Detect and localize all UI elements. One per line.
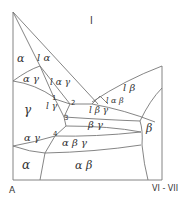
- region-l-label: l: [90, 16, 93, 26]
- axis-right-label: VI - VII: [152, 185, 178, 193]
- region-alpha-gamma-upper-label: α γ: [23, 74, 39, 84]
- point-3-label: 3: [64, 115, 68, 122]
- liquidus-outer: [13, 12, 98, 104]
- region-gamma-label: γ: [24, 104, 31, 116]
- axis-left-label: A: [9, 186, 15, 195]
- region-l-alpha-beta-label: l α β: [106, 97, 124, 105]
- region-l-gamma-label: l γ: [46, 102, 57, 111]
- region-beta-gamma-label: β γ: [88, 120, 103, 130]
- region-l-alpha-gamma-label: l α γ: [50, 78, 70, 87]
- region-alpha-gamma-lower-label: α γ: [24, 133, 40, 143]
- region-alpha-bottom-label: α: [22, 159, 30, 171]
- region-alpha-beta-label: α β: [75, 160, 92, 171]
- region-beta-label: β: [146, 123, 152, 134]
- region-l-beta-label: l β: [123, 83, 135, 93]
- point-1-label: 1: [52, 95, 56, 102]
- region-alpha-beta-gamma-label: α β γ: [62, 138, 87, 148]
- region-l-alpha-label: l α: [37, 53, 50, 63]
- point-4-label: 4: [53, 131, 57, 138]
- region-l-beta-gamma-label: l β γ: [89, 106, 108, 115]
- point-2-label: 2: [71, 100, 75, 107]
- region-alpha-top-label: α: [17, 53, 24, 64]
